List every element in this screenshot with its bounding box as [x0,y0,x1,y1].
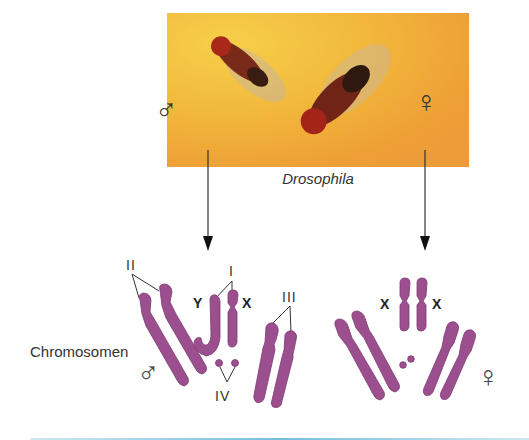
label-chromosomes: Chromosomen [30,343,128,360]
male-symbol: ♂ [137,356,160,390]
label-x-chromosome-female-left: X [380,296,389,312]
female-chromosomes [335,278,476,400]
label-pair-III: III [282,289,297,305]
label-x-chromosome-male: X [242,295,251,311]
female-symbol: ♀ [477,360,500,394]
label-pair-IV: IV [215,388,230,404]
label-pair-II: II [126,257,136,273]
label-y-chromosome: Y [193,295,202,311]
label-pair-I: I [229,263,234,279]
diagram-lines-and-chromosomes [0,0,529,440]
label-x-chromosome-female-right: X [432,296,441,312]
